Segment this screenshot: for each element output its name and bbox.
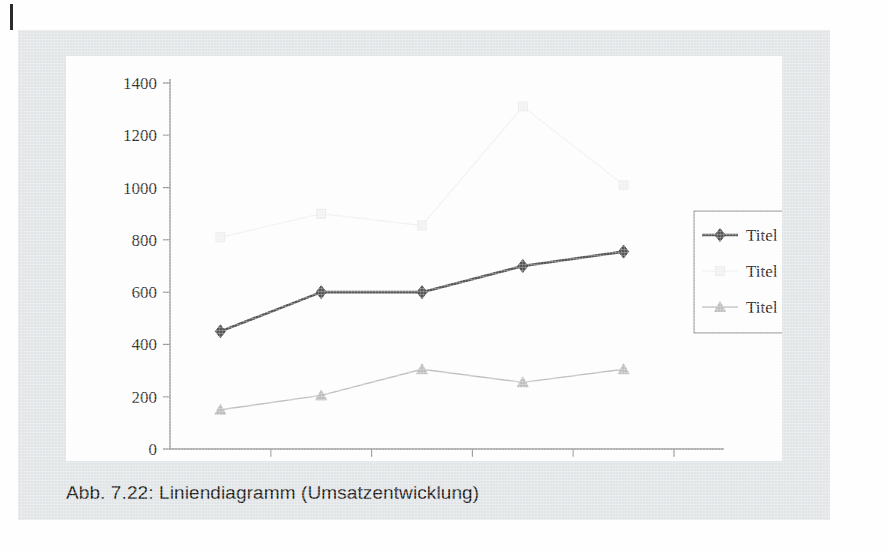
- figure-panel: 0200400600800100012001400200520062007200…: [18, 30, 830, 520]
- chart-plot-area: 0200400600800100012001400200520062007200…: [66, 56, 782, 461]
- y-axis-tick-label: 800: [132, 231, 158, 250]
- series-1-point: [417, 286, 427, 299]
- series-line-2: [220, 107, 623, 238]
- series-2-point: [216, 233, 225, 242]
- legend-label-1: Titel 1: [746, 226, 782, 245]
- y-axis-tick-label: 1000: [123, 179, 157, 198]
- series-2-point: [619, 180, 628, 189]
- y-axis-tick-label: 0: [149, 440, 158, 459]
- series-3-point: [618, 364, 629, 374]
- series-2-point: [518, 102, 527, 111]
- legend-label-2: Titel 2: [746, 262, 782, 281]
- line-chart: 0200400600800100012001400200520062007200…: [66, 56, 782, 461]
- scanned-book-page: 0200400600800100012001400200520062007200…: [0, 0, 888, 552]
- figure-caption: Abb. 7.22: Liniendiagramm (Umsatzentwick…: [66, 482, 479, 504]
- series-1-point: [215, 325, 225, 338]
- y-axis-tick-label: 600: [132, 283, 158, 302]
- y-axis-tick-label: 400: [132, 335, 158, 354]
- y-axis-tick-label: 1400: [123, 74, 157, 93]
- chart-legend: Titel 1Titel 2Titel 3: [694, 211, 782, 333]
- legend-marker-icon-2: [716, 267, 725, 276]
- chart-axes: 0200400600800100012001400200520062007200…: [123, 74, 724, 461]
- y-axis-tick-label: 200: [132, 388, 158, 407]
- chart-series-group: [215, 102, 629, 414]
- series-line-3: [220, 369, 623, 410]
- series-3-point: [417, 364, 428, 374]
- legend-label-3: Titel 3: [746, 298, 782, 317]
- series-1-point: [316, 286, 326, 299]
- series-2-point: [418, 221, 427, 230]
- y-axis-tick-label: 1200: [123, 126, 157, 145]
- series-2-point: [317, 209, 326, 218]
- series-1-point: [619, 245, 629, 258]
- page-margin-rule: [10, 4, 13, 30]
- series-1-point: [518, 260, 528, 273]
